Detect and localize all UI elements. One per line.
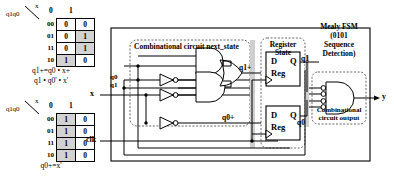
kmap-equation: q0+=x' [1,161,101,171]
kmap-table: 00 1 0 01 1 0 11 1 0 10 1 0 [38,113,95,162]
and-gate-1 [196,48,223,74]
junction-dot [136,64,139,67]
inverter-gate-1 [160,74,178,86]
kmap-cell: 0 [76,126,95,138]
output-and-bubble-1 [321,86,326,91]
kmap-table: 00 0 0 01 0 1 11 0 1 10 1 0 [38,18,95,67]
kmap-row-header: 10 [38,55,57,67]
kmap-panel: q1q0 x 0 1 00 0 0 01 0 1 [0,0,100,193]
table-row: 00 1 0 [38,114,95,126]
kmap-divider-slash-icon [24,100,40,114]
kmap-cell: 1 [76,43,95,55]
kmap-cell: 1 [57,138,76,150]
kmap-row-header: 10 [38,150,57,162]
table-row: 01 1 0 [38,126,95,138]
inverter-gate-2 [160,89,178,101]
kmap-row-header: 11 [38,43,57,55]
kmap-col-header-1: 1 [69,6,73,15]
table-row: 10 1 0 [38,55,95,67]
output-and-bubble-3 [321,99,326,104]
kmap-divider-slash-icon [24,5,40,19]
y-arrowhead-icon [374,96,380,101]
table-row: 10 1 0 [38,150,95,162]
kmap-cell: 0 [76,138,95,150]
and-gate-2 [196,72,225,102]
kmap-row-variable-label: q1q0 [6,105,19,113]
kmap-cell: 1 [57,55,76,67]
kmap-equation: q1+=q0 • x+ q1 • q0' • x' [1,66,101,85]
kmap-equation-line: q1 • q0' • x' [1,76,101,86]
kmap-col-header-1: 1 [69,101,73,110]
kmap-q0-next: q1q0 x 0 1 00 1 0 01 1 0 [4,99,96,120]
kmap-cell: 1 [76,31,95,43]
table-row: 01 0 1 [38,31,95,43]
output-and-gate [326,82,354,114]
kmap-cell: 0 [76,150,95,162]
kmap-col-header-0: 0 [49,6,53,15]
junction-dot [136,78,139,81]
kmap-col-header-0: 0 [49,101,53,110]
kmap-row-header: 00 [38,114,57,126]
figure-root: q1q0 x 0 1 00 0 0 01 0 1 [0,0,394,193]
kmap-equation-line: q0+=x' [1,161,101,171]
kmap-q1-next: q1q0 x 0 1 00 0 0 01 0 1 [4,4,96,25]
kmap-row-header: 01 [38,31,57,43]
fsm-circuit-diagram: x clk q0 q1 Combinational circuit next_s… [100,10,394,190]
kmap-row-header: 01 [38,126,57,138]
table-row: 00 0 0 [38,19,95,31]
table-row: 11 0 1 [38,43,95,55]
kmap-cell: 1 [57,114,76,126]
kmap-cell: 0 [76,19,95,31]
junction-dot [122,86,125,89]
kmap-cell: 0 [76,114,95,126]
kmap-cell: 0 [76,55,95,67]
kmap-cell: 0 [57,19,76,31]
table-row: 11 1 0 [38,138,95,150]
kmap-cell: 1 [57,126,76,138]
inverter-gate-3 [160,117,178,129]
kmap-row-header: 11 [38,138,57,150]
kmap-cell: 1 [57,150,76,162]
kmap-equation-line: q1+=q0 • x+ [1,66,101,76]
output-and-bubble-2 [321,92,326,97]
kmap-row-header: 00 [38,19,57,31]
kmap-row-variable-label: q1q0 [6,10,19,18]
kmap-cell: 0 [57,31,76,43]
kmap-cell: 0 [57,43,76,55]
output-and-bubble-4 [321,105,326,110]
